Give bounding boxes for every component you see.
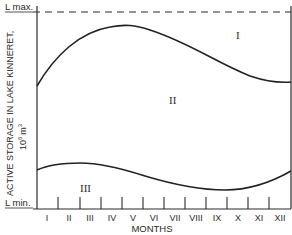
- y-axis-unit: 106m3: [17, 123, 28, 150]
- y-axis-title: ACTIVE STORAGE IN LAKE KINNERET,: [5, 31, 15, 196]
- month-label: XII: [274, 213, 285, 223]
- storage-diagram: L max. L min. ACTIVE STORAGE IN LAKE KIN…: [0, 0, 292, 235]
- month-ticks: [58, 197, 269, 209]
- zone-label-ii: II: [169, 94, 177, 106]
- month-label: IV: [108, 213, 117, 223]
- month-label: XI: [255, 213, 264, 223]
- month-label: III: [86, 213, 94, 223]
- month-labels: I II III IV V VI VII VIII IX X XI XII: [46, 213, 286, 223]
- month-label: VI: [150, 213, 159, 223]
- svg-text:106m3: 106m3: [17, 123, 28, 150]
- month-label: V: [130, 213, 136, 223]
- x-axis-title: MONTHS: [131, 223, 172, 234]
- lmin-label: L min.: [5, 197, 31, 208]
- month-label: VIII: [189, 213, 203, 223]
- month-label: X: [235, 213, 241, 223]
- month-label: II: [66, 213, 71, 223]
- month-label: IX: [213, 213, 222, 223]
- zone-label-iii: III: [80, 182, 91, 194]
- lmax-label: L max.: [5, 1, 33, 12]
- zone-label-i: I: [236, 29, 240, 41]
- upper-boundary-curve: [37, 25, 291, 86]
- month-label: VII: [169, 213, 180, 223]
- lower-boundary-curve: [37, 163, 291, 190]
- month-label: I: [46, 213, 49, 223]
